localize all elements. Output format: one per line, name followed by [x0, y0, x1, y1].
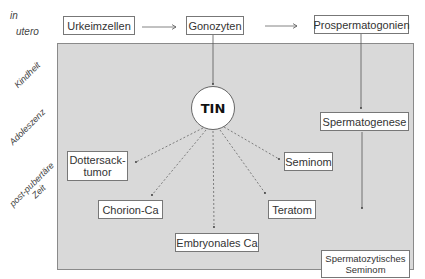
arrow-tin-to-chorion	[152, 130, 206, 195]
arrow-tin-to-dottersack	[136, 128, 203, 162]
node-spermseminom-line2: Seminom	[345, 264, 385, 275]
node-spermseminom-line1: Spermatozytisches	[325, 253, 405, 264]
node-urkeimzellen: Urkeimzellen	[63, 16, 135, 35]
node-seminom: Seminom	[284, 152, 333, 171]
arrow-tin-to-seminom	[224, 127, 279, 159]
node-tin: TIN	[191, 86, 235, 130]
node-embryonales-ca: Embryonales Ca	[175, 233, 259, 252]
arrow-tin-to-teratom	[220, 130, 265, 193]
node-spermatozytisches-seminom: Spermatozytisches Seminom	[321, 250, 410, 278]
node-teratom: Teratom	[268, 200, 316, 219]
node-gonozyten: Gonozyten	[186, 16, 244, 35]
node-dottersacktumor-line1: Dottersack-	[69, 154, 125, 166]
node-chorion-ca: Chorion-Ca	[98, 200, 163, 219]
node-spermatogenese: Spermatogenese	[320, 112, 409, 131]
node-dottersacktumor: Dottersack- tumor	[67, 151, 128, 181]
arrow-tin-to-embryonal	[213, 131, 214, 227]
node-prospermatogonien: Prospermatogonien	[314, 15, 409, 34]
node-dottersacktumor-line2: tumor	[83, 166, 111, 178]
stage-label-in-utero-1: in	[10, 10, 18, 21]
stage-label-in-utero-2: utero	[16, 26, 39, 37]
